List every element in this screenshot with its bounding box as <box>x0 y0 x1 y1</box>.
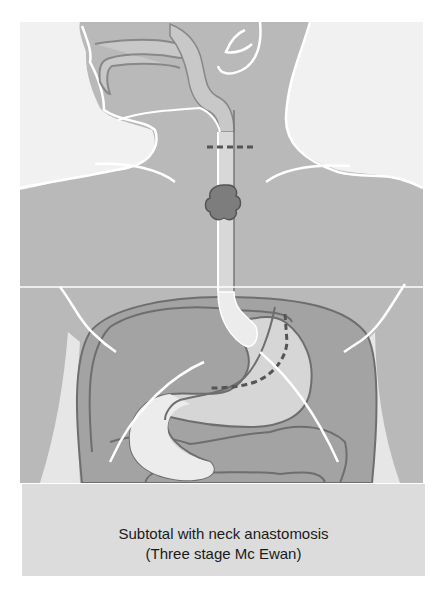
caption: Subtotal with neck anastomosis (Three st… <box>22 524 425 564</box>
caption-panel: Subtotal with neck anastomosis (Three st… <box>22 484 425 576</box>
caption-subtitle: (Three stage Mc Ewan) <box>22 544 425 564</box>
anatomical-illustration <box>20 22 423 483</box>
tumor <box>206 185 241 220</box>
caption-title: Subtotal with neck anastomosis <box>22 524 425 544</box>
